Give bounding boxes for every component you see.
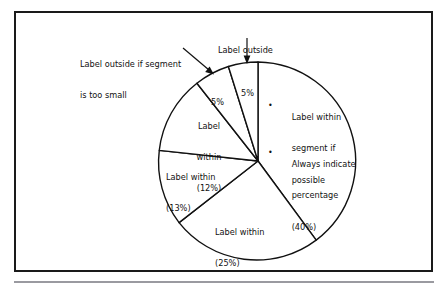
slice-label-line-1: Label	[181, 121, 237, 131]
slice-label-value: 5%	[241, 88, 254, 98]
figure-container: Label outside if segment is too small La…	[0, 0, 448, 293]
annotation-label-outside: Label outside	[218, 24, 318, 76]
bullet-item: Always indicate	[268, 148, 360, 180]
bullet-line-2: percentage	[292, 190, 339, 200]
bullet-line-2-wrap: percentage	[268, 180, 360, 212]
slice-label-40-bullet-2: Always indicate percentage (40%)	[268, 148, 360, 243]
footer-divider	[14, 281, 434, 283]
annotation-line-2: is too small	[80, 90, 210, 100]
bullet-line-3-wrap: (40%)	[268, 212, 360, 244]
annotation-line-1: Label outside	[218, 45, 318, 55]
slice-label-line-2: (25%)	[215, 258, 295, 268]
bullet-item: Label within	[268, 101, 354, 133]
bullet-line-1: Always indicate	[292, 159, 356, 169]
bullet-line-3: (40%)	[292, 222, 317, 232]
slice-label-5-b: 5%	[241, 68, 254, 119]
slice-label-line-1: Label within	[166, 172, 246, 182]
bullet-line-1: Label within	[292, 112, 342, 122]
annotation-line-1: Label outside if segment	[80, 59, 210, 69]
